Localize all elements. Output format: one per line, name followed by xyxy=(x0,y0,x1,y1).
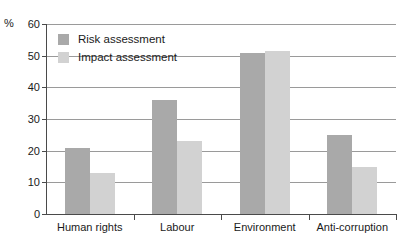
y-axis-tick-mark xyxy=(42,56,47,57)
y-axis-tick-label: 10 xyxy=(14,176,40,188)
bar-chart: % 6050403020100 Risk assessmentImpact as… xyxy=(0,0,406,242)
bar xyxy=(352,167,377,215)
x-axis-category-label: Anti-corruption xyxy=(309,221,397,234)
legend-item-label: Risk assessment xyxy=(78,33,165,46)
x-axis-tick-mark xyxy=(134,214,135,220)
x-axis-category-label: Environment xyxy=(221,221,309,234)
legend-item-label: Impact assessment xyxy=(78,51,177,64)
legend-item: Impact assessment xyxy=(58,49,177,65)
x-axis-tick-mark xyxy=(221,214,222,220)
y-axis-tick-label: 40 xyxy=(14,81,40,93)
legend-swatch-icon xyxy=(58,34,69,45)
y-axis-tick-label: 50 xyxy=(14,50,40,62)
y-axis-tick-label: 60 xyxy=(14,18,40,30)
chart-legend: Risk assessmentImpact assessment xyxy=(58,31,177,67)
y-axis-tick-label: 30 xyxy=(14,113,40,125)
bar xyxy=(152,100,177,214)
bar xyxy=(327,135,352,214)
bar xyxy=(177,141,202,214)
x-axis-tick-mark xyxy=(309,214,310,220)
bar xyxy=(65,148,90,215)
y-axis-tick-mark xyxy=(42,214,47,215)
legend-item: Risk assessment xyxy=(58,31,177,47)
y-axis-tick-mark xyxy=(42,151,47,152)
y-axis-tick-mark xyxy=(42,24,47,25)
y-axis-tick-label: 20 xyxy=(14,145,40,157)
bar xyxy=(240,53,265,215)
bar-group xyxy=(240,24,290,214)
y-axis-tick-label: 0 xyxy=(14,208,40,220)
bar xyxy=(265,51,290,214)
y-axis-tick-mark xyxy=(42,182,47,183)
y-axis-tick-labels: 6050403020100 xyxy=(12,0,40,242)
bar xyxy=(90,173,115,214)
y-axis-tick-mark xyxy=(42,87,47,88)
x-axis-tick-mark xyxy=(396,214,397,220)
x-axis-category-label: Human rights xyxy=(46,221,134,234)
y-axis-tick-mark xyxy=(42,119,47,120)
x-axis-category-label: Labour xyxy=(134,221,222,234)
legend-swatch-icon xyxy=(58,52,69,63)
bar-group xyxy=(327,24,377,214)
